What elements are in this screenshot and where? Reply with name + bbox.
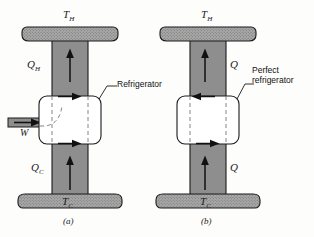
- refrigerator-box-a: [39, 96, 101, 144]
- panel-caption-a: (a): [63, 216, 74, 226]
- perfect-refrigerator-box-b: [177, 96, 239, 144]
- heat-out-label-a: QH: [27, 58, 40, 73]
- callout-line-1: Perfect: [252, 65, 279, 75]
- energy-flow-figure: [0, 0, 314, 237]
- hot-reservoir-label-a: TH: [63, 8, 74, 23]
- hot-reservoir-a: [22, 27, 118, 41]
- heat-out-label-b: Q: [230, 58, 238, 70]
- hot-reservoir-label-b: TH: [201, 8, 212, 23]
- panel-caption-b: (b): [201, 216, 212, 226]
- cold-reservoir-label-a: TC: [62, 195, 73, 210]
- work-input-label-a: W: [20, 127, 28, 138]
- cold-reservoir-label-b: TC: [200, 195, 211, 210]
- panel-a: [8, 27, 122, 208]
- heat-in-label-b: Q: [230, 161, 238, 173]
- refrigerator-callout-label-a: Refrigerator: [117, 80, 162, 90]
- heat-in-label-a: QC: [31, 161, 44, 176]
- hot-reservoir-b: [160, 27, 256, 41]
- refrigerator-leader-line-a: [99, 86, 117, 99]
- callout-line-2: refrigerator: [252, 75, 294, 85]
- perfect-refrigerator-callout-label-b: Perfectrefrigerator: [252, 66, 294, 85]
- panel-b: [156, 27, 260, 208]
- perfect-refrigerator-leader-line-b: [237, 84, 254, 99]
